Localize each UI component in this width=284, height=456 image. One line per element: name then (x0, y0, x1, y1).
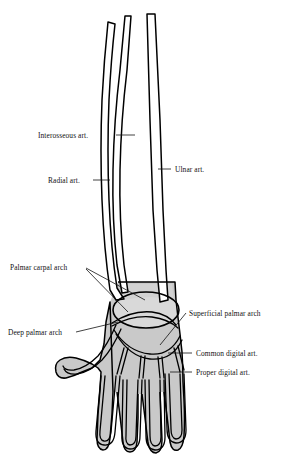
label-common-digital: Common digital art. (196, 349, 258, 358)
interosseous-artery (113, 16, 131, 293)
label-radial: Radial art. (48, 176, 80, 185)
label-proper-digital: Proper digital art. (196, 368, 250, 377)
label-superficial-palmar: Superficial palmar arch (189, 309, 261, 318)
forearm-vessels (101, 14, 168, 302)
anatomy-figure: Interosseous art.Radial art.Ulnar art.Pa… (0, 0, 284, 456)
arterial-diagram-svg: Interosseous art.Radial art.Ulnar art.Pa… (0, 0, 284, 456)
label-interosseous: Interosseous art. (38, 131, 88, 140)
label-deep-palmar: Deep palmar arch (8, 328, 62, 337)
ulnar-artery (147, 14, 168, 302)
label-palmar-carpal: Palmar carpal arch (10, 263, 67, 272)
label-ulnar: Ulnar art. (175, 165, 204, 174)
